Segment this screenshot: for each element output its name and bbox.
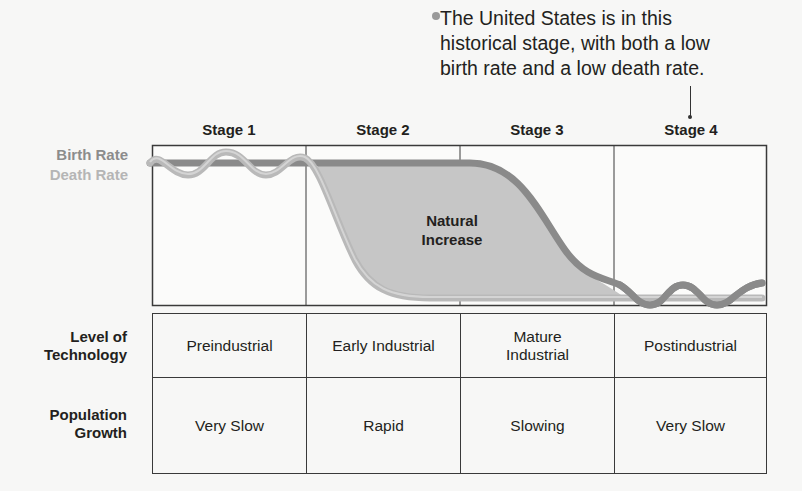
natural-increase-label-1: Natural [426,212,478,229]
row-label-growth-line-1: Population [50,406,128,424]
cell-growth-stage-4: Very Slow [615,378,766,473]
cell-technology-stage-3-line-1: Mature [506,328,569,346]
row-label-growth-line-2: Growth [50,424,128,442]
cell-growth-stage-2: Rapid [307,378,461,473]
row-label-technology: Level of Technology [44,328,127,364]
row-label-technology-line-1: Level of [44,328,127,346]
cell-growth-stage-3: Slowing [461,378,615,473]
cell-technology-stage-4: Postindustrial [615,314,766,378]
cell-technology-stage-2: Early Industrial [307,314,461,378]
row-label-population-growth: Population Growth [50,406,128,442]
natural-increase-label-2: Increase [422,231,483,248]
stage-characteristics-table: Preindustrial Early Industrial Mature In… [152,313,767,474]
cell-technology-stage-3: Mature Industrial [461,314,615,378]
row-label-technology-line-2: Technology [44,346,127,364]
cell-technology-stage-3-line-2: Industrial [506,346,569,364]
cell-technology-stage-1: Preindustrial [153,314,307,378]
cell-growth-stage-1: Very Slow [153,378,307,473]
